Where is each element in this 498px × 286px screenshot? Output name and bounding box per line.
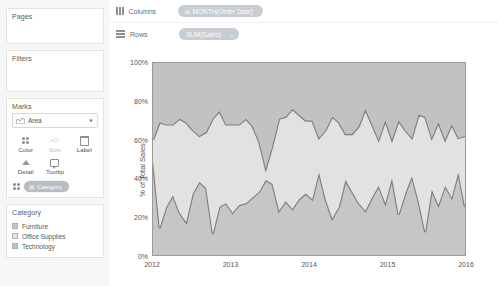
rows-pill-label: SUM(Sales) [186,31,221,38]
rows-grip-icon [116,30,125,38]
legend-item-label: Furniture [22,223,48,230]
marks-color-label: Color [18,146,33,153]
marks-category-pill-label: Category [37,183,62,190]
columns-pill-label: MONTH(Order Date) [193,8,253,15]
legend-item-furniture[interactable]: Furniture [12,221,98,231]
marks-card[interactable]: Marks Area Color [6,98,104,198]
visualization-area: % of Total Sales 0%20%40%60%80%100% 2012… [110,45,498,286]
x-axis-tick-label: 2015 [380,261,396,268]
x-axis-tick-label: 2016 [458,261,474,268]
legend-item-technology[interactable]: Technology [12,241,98,251]
legend-items: Furniture Office Supplies Technology [7,219,103,257]
x-axis-tick-label: 2012 [144,261,160,268]
mark-type-dropdown[interactable]: Area [12,113,98,128]
legend-title: Category [7,205,103,219]
legend-swatch [12,233,18,239]
filters-card-title: Filters [7,51,103,65]
plot-area[interactable] [152,62,466,256]
y-axis-tick-label: 80% [134,97,148,104]
marks-label-label: Label [77,146,92,153]
y-axis-tick-label: 20% [134,214,148,221]
category-legend-card[interactable]: Category Furniture Office Supplies Techn… [6,204,104,258]
chevron-down-icon[interactable] [89,119,93,122]
rows-shelf-label: Rows [130,31,174,38]
shelves-region: Columns ⊞ MONTH(Order Date) Rows SUM(Sal… [110,0,498,47]
label-box-icon [80,136,89,145]
left-sidebar: Pages Filters Marks Area Colo [0,0,110,286]
color-dots-icon [21,136,30,145]
legend-item-label: Office Supplies [22,233,66,240]
rows-pill-sum-sales[interactable]: SUM(Sales) ▵ [179,28,239,40]
calendar-icon[interactable]: ⊞ [185,8,190,15]
marks-buttons-grid: Color Size Label [11,133,99,177]
marks-color-shelf[interactable]: ▤ Category [12,181,98,192]
marks-detail-label: Detail [18,168,34,175]
marks-tooltip-label: Tooltip [46,168,64,175]
legend-item-office-supplies[interactable]: Office Supplies [12,231,98,241]
marks-color-button[interactable]: Color [11,133,40,155]
rows-shelf[interactable]: Rows SUM(Sales) ▵ [110,23,498,46]
dimension-icon: ▤ [29,184,35,190]
tableau-worksheet: Pages Filters Marks Area Colo [0,0,498,286]
y-axis-tick-label: 60% [134,136,148,143]
worksheet-main: Columns ⊞ MONTH(Order Date) Rows SUM(Sal… [110,0,498,286]
marks-tooltip-button[interactable]: Tooltip [40,155,69,177]
columns-pill-month-order-date[interactable]: ⊞ MONTH(Order Date) [178,5,263,17]
mark-type-label: Area [28,117,42,124]
legend-swatch [12,243,18,249]
quick-table-calc-icon: ▵ [230,31,233,38]
tooltip-icon [50,158,59,167]
filters-card[interactable]: Filters [6,50,104,92]
detail-icon [21,158,30,167]
area-chart-icon [16,116,25,125]
marks-grid-spacer [70,155,99,177]
pages-card-title: Pages [7,9,103,23]
marks-category-pill[interactable]: ▤ Category [24,181,69,192]
legend-swatch [12,223,18,229]
columns-shelf-label: Columns [129,8,173,15]
pages-shelf-dropzone[interactable] [7,23,103,43]
x-axis-ticks: 20122013201420152016 [110,259,498,277]
filters-shelf-dropzone[interactable] [7,65,103,91]
columns-shelf[interactable]: Columns ⊞ MONTH(Order Date) [110,0,498,23]
size-icon [50,136,59,145]
color-dots-icon [12,182,21,191]
x-axis-tick-label: 2013 [223,261,239,268]
marks-size-button[interactable]: Size [40,133,69,155]
y-axis-ticks: 0%20%40%60%80%100% [116,45,148,286]
y-axis-tick-label: 40% [134,175,148,182]
columns-grip-icon [116,7,124,15]
marks-card-title: Marks [7,99,103,113]
marks-label-button[interactable]: Label [70,133,99,155]
stacked-area-chart[interactable] [153,63,465,255]
x-axis-tick-label: 2014 [301,261,317,268]
marks-detail-button[interactable]: Detail [11,155,40,177]
pages-card[interactable]: Pages [6,8,104,44]
legend-item-label: Technology [22,243,55,250]
y-axis-tick-label: 100% [130,59,148,66]
marks-size-label: Size [49,146,61,153]
